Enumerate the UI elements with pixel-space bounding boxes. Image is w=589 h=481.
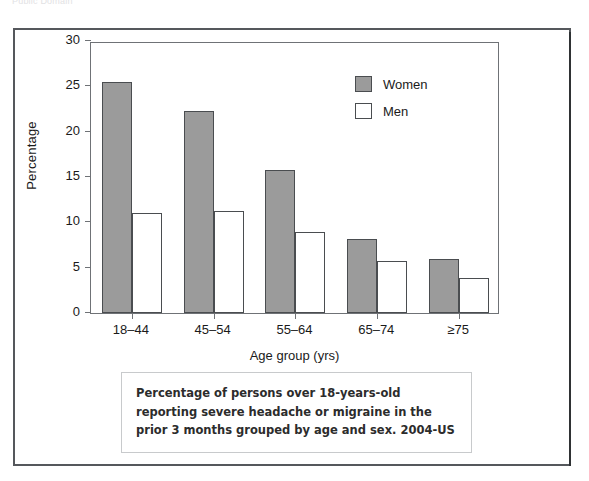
x-axis-tick-mark <box>132 313 133 319</box>
x-axis-title: Age group (yrs) <box>90 348 499 363</box>
bar-group <box>418 43 500 313</box>
x-axis-tick-label: 18–44 <box>90 322 172 337</box>
x-axis-tick-mark <box>459 313 460 319</box>
bar-group <box>91 43 173 313</box>
bar-women <box>184 111 214 313</box>
bar-women <box>347 239 377 313</box>
x-axis-tick-mark <box>295 313 296 319</box>
bar-men <box>132 213 162 313</box>
bar-women <box>102 82 132 313</box>
caption-text: Percentage of persons over 18-years-old … <box>136 384 457 440</box>
legend-swatch-men-icon <box>355 103 372 119</box>
y-axis-title: Percentage <box>24 96 39 216</box>
y-axis-tick: 25 <box>61 85 91 86</box>
legend-item-women: Women <box>355 76 428 92</box>
y-axis-tick-label: 25 <box>66 77 80 92</box>
x-axis-tick-label: 45–54 <box>172 322 254 337</box>
bar-men <box>377 261 407 313</box>
y-axis-tick: 0 <box>61 312 91 313</box>
legend-label-women: Women <box>383 77 428 92</box>
plot-area: 051015202530 <box>90 42 499 314</box>
bar-men <box>214 211 244 313</box>
bar-men <box>295 232 325 313</box>
y-axis-tick: 15 <box>61 176 91 177</box>
top-note: Public Domain <box>12 0 73 6</box>
plot-inner: 051015202530 <box>91 43 498 313</box>
legend-swatch-women-icon <box>355 76 372 92</box>
y-axis-tick-mark <box>85 40 91 41</box>
bar-group <box>173 43 255 313</box>
y-axis-tick-label: 10 <box>66 213 80 228</box>
x-axis-tick-mark <box>214 313 215 319</box>
bar-chart: Percentage 051015202530 Age group (yrs) … <box>15 30 573 360</box>
bar-group <box>255 43 337 313</box>
bar-women <box>265 170 295 313</box>
figure-frame: Percentage 051015202530 Age group (yrs) … <box>13 28 571 466</box>
x-axis-tick-mark <box>377 313 378 319</box>
y-axis-tick-label: 0 <box>73 304 80 319</box>
legend-item-men: Men <box>355 103 428 119</box>
y-axis-tick-label: 20 <box>66 123 80 138</box>
y-axis-tick-label: 30 <box>66 32 80 47</box>
y-axis-tick-label: 15 <box>66 168 80 183</box>
y-axis-tick-label: 5 <box>73 259 80 274</box>
bar-women <box>429 259 459 313</box>
x-axis-tick-label: 55–64 <box>254 322 336 337</box>
x-axis-tick-label: ≥75 <box>417 322 499 337</box>
chart-legend: Women Men <box>355 76 428 130</box>
legend-label-men: Men <box>383 104 408 119</box>
y-axis-tick: 20 <box>61 131 91 132</box>
y-axis-tick: 30 <box>61 40 91 41</box>
y-axis-tick: 10 <box>61 221 91 222</box>
caption-box: Percentage of persons over 18-years-old … <box>121 372 472 453</box>
bar-men <box>459 278 489 313</box>
x-axis-tick-label: 65–74 <box>335 322 417 337</box>
y-axis-tick: 5 <box>61 267 91 268</box>
